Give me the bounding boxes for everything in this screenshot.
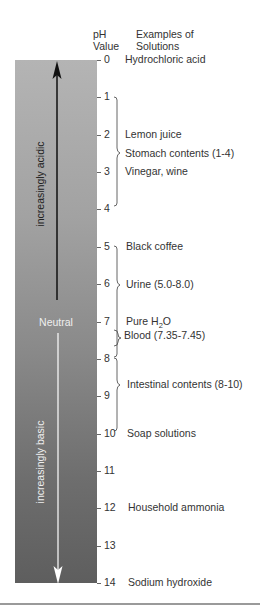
neutral-label: Neutral [15, 316, 97, 328]
ph-6: 6 [104, 277, 110, 289]
bracket-blood [114, 330, 121, 346]
example-vinegar-wine: Vinegar, wine [125, 165, 188, 177]
example-soap-solutions: Soap solutions [127, 427, 196, 439]
increasingly-acidic-label: increasingly acidic [34, 134, 46, 234]
ph-12: 12 [104, 501, 116, 513]
diagram-overlay [0, 0, 260, 614]
ph-1: 1 [104, 90, 110, 102]
bracket-stomach [114, 97, 120, 206]
tick-13 [97, 546, 101, 547]
increasingly-basic-label: increasingly basic [34, 412, 46, 512]
ph-0: 0 [104, 53, 110, 65]
ph-7: 7 [104, 315, 110, 327]
tick-0 [97, 60, 101, 61]
ph-3: 3 [104, 165, 110, 177]
tick-7 [97, 322, 101, 323]
tick-8 [97, 359, 101, 360]
ph-8: 8 [104, 352, 110, 364]
example-pure-water: Pure H2O [126, 315, 171, 330]
pure-water-text: Pure H [126, 315, 159, 327]
tick-11 [97, 471, 101, 472]
tick-3 [97, 172, 101, 173]
bracket-intestinal [114, 358, 120, 431]
bracket-urine [114, 246, 120, 357]
bottom-divider [0, 603, 260, 605]
example-black-coffee: Black coffee [126, 240, 183, 252]
ph-2: 2 [104, 128, 110, 140]
example-lemon-juice: Lemon juice [125, 128, 182, 140]
example-intestinal-contents: Intestinal contents (8-10) [127, 378, 243, 390]
acidic-arrow-icon [53, 61, 62, 300]
tick-4 [97, 209, 101, 210]
pure-water-suffix: O [163, 315, 171, 327]
tick-2 [97, 135, 101, 136]
tick-10 [97, 434, 101, 435]
ph-5: 5 [104, 240, 110, 252]
tick-6 [97, 284, 101, 285]
ph-13: 13 [104, 539, 116, 551]
ph-11: 11 [104, 464, 115, 476]
tick-1 [97, 97, 101, 98]
example-stomach-contents: Stomach contents (1-4) [125, 147, 234, 159]
tick-14 [97, 583, 101, 584]
example-blood: Blood (7.35-7.45) [124, 329, 205, 341]
ph-9: 9 [104, 389, 110, 401]
tick-5 [97, 247, 101, 248]
tick-9 [97, 396, 101, 397]
ph-4: 4 [104, 202, 110, 214]
example-hydrochloric-acid: Hydrochloric acid [125, 53, 206, 65]
example-sodium-hydroxide: Sodium hydroxide [128, 576, 212, 588]
ph-14: 14 [104, 576, 116, 588]
example-urine: Urine (5.0-8.0) [126, 278, 194, 290]
basic-arrow-icon [54, 333, 63, 584]
example-household-ammonia: Household ammonia [128, 501, 224, 513]
ph-10: 10 [104, 427, 116, 439]
tick-12 [97, 508, 101, 509]
